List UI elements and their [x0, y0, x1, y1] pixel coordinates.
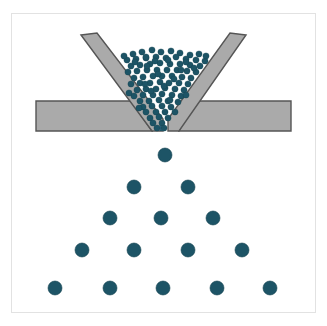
particle: [158, 49, 164, 55]
figure-root: L: [0, 0, 327, 326]
particle: [178, 67, 184, 73]
particle: [152, 58, 158, 64]
particle: [127, 180, 141, 194]
particle: [175, 99, 181, 105]
particle: [75, 243, 89, 257]
particle: [263, 281, 277, 295]
particle: [137, 98, 143, 104]
particle: [188, 75, 194, 81]
particle: [181, 180, 195, 194]
particle: [162, 109, 168, 115]
particle: [159, 91, 165, 97]
dispersed-particle-row-4: [48, 281, 277, 295]
particle: [185, 81, 191, 87]
particle: [140, 74, 146, 80]
particle: [177, 61, 183, 67]
particle: [155, 71, 161, 77]
dispersed-particle-row-1: [127, 180, 195, 194]
particle: [168, 104, 174, 110]
particle: [144, 63, 150, 69]
particle: [148, 88, 154, 94]
particle: [139, 49, 145, 55]
particle: [136, 105, 142, 111]
particle: [165, 115, 171, 121]
falling-single-particle: [158, 148, 172, 162]
particle: [140, 92, 146, 98]
particle: [196, 51, 202, 57]
particle: [134, 87, 140, 93]
particle: [143, 54, 149, 60]
dispersed-particle-row-3: [75, 243, 249, 257]
particle: [193, 57, 199, 63]
particle: [179, 74, 185, 80]
particle: [173, 54, 179, 60]
dispersed-particle-row-2: [103, 211, 220, 225]
particle: [127, 243, 141, 257]
particle: [132, 59, 138, 65]
particle: [149, 47, 155, 53]
particle: [126, 90, 132, 96]
particle: [149, 103, 155, 109]
particle: [131, 75, 137, 81]
particle: [181, 243, 195, 257]
particle: [134, 68, 140, 74]
particle: [143, 109, 149, 115]
particle: [156, 114, 162, 120]
particle: [184, 68, 190, 74]
particle: [154, 211, 168, 225]
particle: [103, 211, 117, 225]
particle: [103, 281, 117, 295]
particle: [161, 83, 167, 89]
particle: [206, 211, 220, 225]
particles-layer: [48, 47, 277, 295]
particle: [197, 63, 203, 69]
particle: [203, 53, 209, 59]
particle: [172, 86, 178, 92]
particle: [183, 59, 189, 65]
particle: [183, 92, 189, 98]
particle: [210, 281, 224, 295]
particle: [48, 281, 62, 295]
particle: [165, 57, 171, 63]
particle: [150, 120, 156, 126]
particle: [171, 76, 177, 82]
particle: [168, 48, 174, 54]
particle: [172, 109, 178, 115]
particle: [125, 69, 131, 75]
hopper-discharge-diagram: [0, 0, 327, 326]
outlet-width-label: L: [159, 124, 165, 133]
particle: [167, 97, 173, 103]
particle: [191, 65, 197, 71]
particle: [235, 243, 249, 257]
particle: [121, 53, 127, 59]
hopper-geometry: [36, 33, 291, 131]
particle: [156, 281, 170, 295]
particle: [159, 103, 165, 109]
particle: [142, 81, 148, 87]
particle: [176, 80, 182, 86]
particle: [128, 81, 134, 87]
particle: [158, 148, 172, 162]
particle: [156, 97, 162, 103]
particle: [164, 67, 170, 73]
